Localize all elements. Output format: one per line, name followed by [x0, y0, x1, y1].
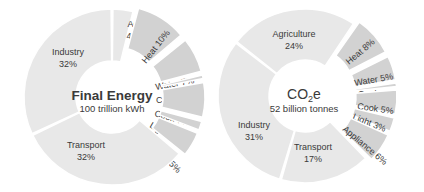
- right-center-title: CO2e: [287, 86, 321, 104]
- left-center-subtitle: 100 trillion kWh: [80, 103, 145, 114]
- slice-industry: [24, 9, 112, 134]
- right-center-subtitle: 52 billion tonnes: [270, 103, 339, 114]
- donut-charts: Ag4%Heat 10%Water 7%Cool 1%Cook 7%Light …: [0, 0, 424, 192]
- left-center-title: Final Energy: [71, 88, 153, 103]
